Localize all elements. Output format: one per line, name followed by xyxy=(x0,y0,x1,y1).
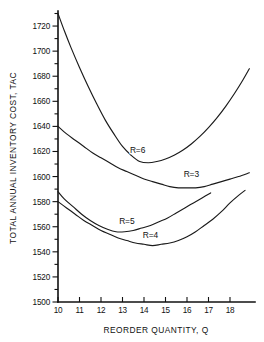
series-label-r6: R=6 xyxy=(130,145,146,155)
curve-r6 xyxy=(58,14,249,163)
x-tick-label-16: 16 xyxy=(183,306,192,315)
y-tick-label-1540: 1540 xyxy=(33,248,51,257)
x-tick-label-10: 10 xyxy=(54,306,63,315)
y-tick-label-1640: 1640 xyxy=(33,122,51,131)
x-tick-label-12: 12 xyxy=(97,306,106,315)
series-label-r4: R=4 xyxy=(143,230,159,240)
x-tick-label-13: 13 xyxy=(118,306,127,315)
y-tick-label-1500: 1500 xyxy=(33,298,51,307)
y-axis-ticks xyxy=(53,14,59,302)
y-axis-title: TOTAL ANNUAL INVENTORY COST, TAC xyxy=(8,72,18,244)
series-label-r3: R=3 xyxy=(184,169,200,179)
y-axis-tick-labels: 1500152015401560158016001620164016601680… xyxy=(33,22,51,307)
y-tick-label-1660: 1660 xyxy=(33,97,51,106)
curve-r3 xyxy=(58,126,249,188)
chart-plot-area: 1500152015401560158016001620164016601680… xyxy=(0,0,264,342)
x-tick-label-17: 17 xyxy=(204,306,213,315)
series-inline-labels: R=6R=6R=3R=3R=5R=5R=4R=4 xyxy=(119,145,199,240)
x-axis-title: REORDER QUANTITY, Q xyxy=(103,325,208,335)
y-tick-label-1680: 1680 xyxy=(33,72,51,81)
y-tick-label-1600: 1600 xyxy=(33,173,51,182)
y-tick-label-1620: 1620 xyxy=(33,147,51,156)
y-tick-label-1560: 1560 xyxy=(33,223,51,232)
x-tick-label-15: 15 xyxy=(161,306,170,315)
y-tick-label-1580: 1580 xyxy=(33,198,51,207)
chart-figure: 1500152015401560158016001620164016601680… xyxy=(0,0,264,342)
y-tick-label-1520: 1520 xyxy=(33,273,51,282)
x-tick-label-18: 18 xyxy=(226,306,235,315)
series-label-r5: R=5 xyxy=(119,216,135,226)
x-tick-label-11: 11 xyxy=(75,306,84,315)
y-tick-label-1700: 1700 xyxy=(33,47,51,56)
y-tick-label-1720: 1720 xyxy=(33,22,51,31)
x-axis-tick-labels: 101112131415161718 xyxy=(54,306,235,315)
x-tick-label-14: 14 xyxy=(140,306,149,315)
chart-curves xyxy=(58,14,249,246)
